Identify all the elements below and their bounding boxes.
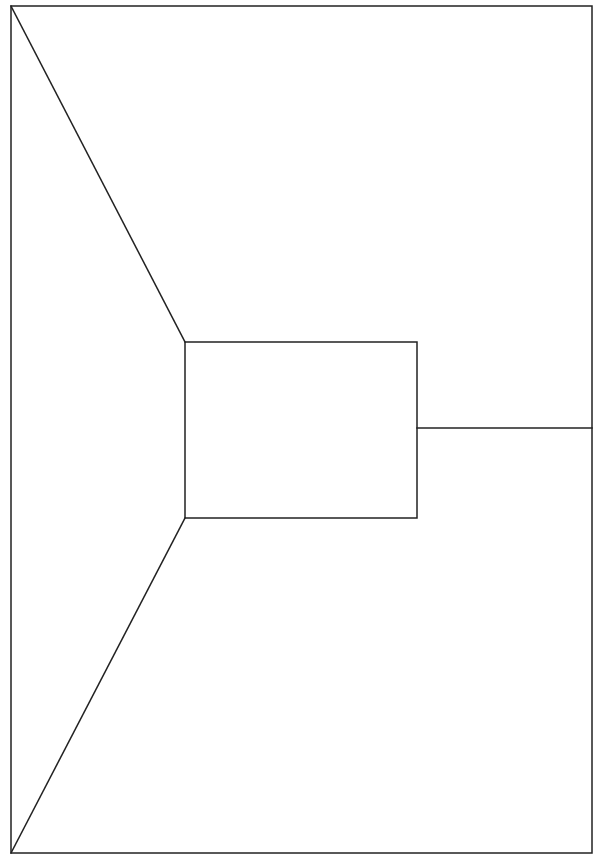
- diagram-canvas: [0, 0, 599, 863]
- inner-rectangle: [185, 342, 417, 518]
- outer-frame: [11, 6, 592, 853]
- diagonal-top-left-line: [11, 6, 185, 342]
- diagonal-bottom-left-line: [11, 518, 185, 853]
